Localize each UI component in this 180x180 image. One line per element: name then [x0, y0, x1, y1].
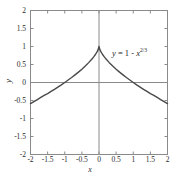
y-tick-label: 1.5 — [0, 25, 26, 33]
equation-annotation: y = 1 - x2/3 — [112, 47, 147, 58]
plot-drawing-layer — [0, 0, 179, 180]
function-plot-figure: 21.510.50-0.5-1-1.5-2 -2-1.5-1-0.500.511… — [0, 0, 179, 180]
equation-exponent: 2/3 — [140, 47, 147, 53]
equation-equals: = 1 - — [116, 48, 136, 58]
y-tick-label: -1 — [0, 115, 26, 123]
y-tick-label: 0.5 — [0, 61, 26, 69]
x-axis-label: x — [82, 165, 98, 174]
x-tick-label: 2 — [155, 156, 180, 164]
y-tick-label: -1.5 — [0, 133, 26, 141]
y-axis-label: y — [3, 71, 13, 91]
y-tick-label: 1 — [0, 43, 26, 51]
y-tick-label: 2 — [0, 7, 26, 15]
y-tick-label: -0.5 — [0, 97, 26, 105]
